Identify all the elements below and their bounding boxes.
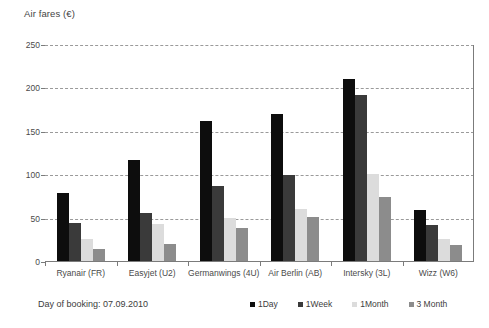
bar-group: Air Berlin (AB) [260, 45, 332, 262]
y-tick-label: 0 [35, 257, 40, 267]
x-tick-mark [260, 262, 261, 266]
bar [355, 95, 367, 262]
x-axis-label: Wizz (W6) [419, 268, 458, 278]
x-axis-line [45, 261, 474, 262]
bar [224, 218, 236, 262]
legend-label: 1Week [306, 299, 332, 309]
bar [343, 79, 355, 262]
bar [81, 239, 93, 262]
x-axis-label: Intersky (3L) [343, 268, 390, 278]
legend-swatch-icon [352, 302, 357, 307]
x-axis-label: Ryanair (FR) [56, 268, 105, 278]
legend-label: 1Month [360, 299, 388, 309]
x-tick-mark [331, 262, 332, 266]
bar [128, 160, 140, 262]
bar [426, 225, 438, 262]
bar-group: Wizz (W6) [403, 45, 475, 262]
bar [212, 186, 224, 262]
bar [414, 210, 426, 262]
legend-label: 1Day [258, 299, 278, 309]
bar [379, 197, 391, 262]
y-tick-label: 50 [31, 214, 40, 224]
y-tick-label: 100 [26, 170, 40, 180]
bar [438, 239, 450, 262]
x-axis-label: Easyjet (U2) [129, 268, 176, 278]
legend-swatch-icon [409, 302, 414, 307]
bar-groups: Ryanair (FR)Easyjet (U2)Germanwings (4U)… [45, 45, 474, 262]
plot-area: 050100150200250 Ryanair (FR)Easyjet (U2)… [45, 45, 474, 262]
y-tick-label: 200 [26, 83, 40, 93]
bar [200, 121, 212, 262]
legend-item[interactable]: 1Month [352, 299, 388, 309]
bar-group: Germanwings (4U) [188, 45, 260, 262]
bar-group: Ryanair (FR) [45, 45, 117, 262]
x-tick-mark [45, 262, 46, 266]
chart-legend: 1Day1Week1Month3 Month [250, 299, 447, 309]
bar [283, 175, 295, 262]
x-tick-mark [117, 262, 118, 266]
right-axis-line [473, 45, 474, 262]
air-fares-bar-chart: Air fares (€) 050100150200250 Ryanair (F… [0, 0, 489, 328]
legend-item[interactable]: 1Day [250, 299, 278, 309]
bar [236, 228, 248, 262]
x-axis-label: Germanwings (4U) [188, 268, 259, 278]
bar-group: Easyjet (U2) [117, 45, 189, 262]
booking-note: Day of booking: 07.09.2010 [38, 299, 148, 309]
bar [295, 209, 307, 262]
legend-label: 3 Month [417, 299, 448, 309]
y-axis-title: Air fares (€) [24, 8, 75, 19]
bar-group: Intersky (3L) [331, 45, 403, 262]
bar [367, 174, 379, 262]
bar [69, 223, 81, 262]
bar [307, 217, 319, 262]
bar [152, 224, 164, 262]
bar [164, 244, 176, 262]
bar [450, 245, 462, 262]
x-tick-mark [403, 262, 404, 266]
bar [271, 114, 283, 262]
legend-swatch-icon [250, 302, 255, 307]
chart-footer: Day of booking: 07.09.2010 1Day1Week1Mon… [0, 292, 489, 316]
bar [57, 193, 69, 262]
bar [140, 213, 152, 262]
legend-swatch-icon [298, 302, 303, 307]
legend-item[interactable]: 1Week [298, 299, 332, 309]
y-tick-label: 150 [26, 127, 40, 137]
x-tick-mark [188, 262, 189, 266]
legend-item[interactable]: 3 Month [409, 299, 448, 309]
y-tick-label: 250 [26, 40, 40, 50]
x-axis-label: Air Berlin (AB) [268, 268, 322, 278]
